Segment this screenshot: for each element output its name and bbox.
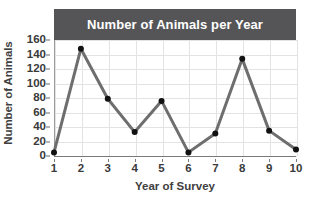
y-tick-label: 40 — [14, 121, 46, 133]
y-tick-mark — [46, 98, 50, 99]
x-tick-mark — [296, 159, 297, 162]
y-tick-mark — [46, 54, 50, 55]
x-axis-title: Year of Survey — [54, 180, 296, 192]
x-tick-mark — [242, 159, 243, 162]
y-tick-mark — [46, 40, 50, 41]
data-point-marker — [212, 131, 218, 137]
x-tick-mark — [162, 159, 163, 162]
x-tick-label: 10 — [283, 163, 309, 175]
x-tick-label: 4 — [122, 163, 148, 175]
x-tick-label: 7 — [202, 163, 228, 175]
x-tick-mark — [269, 159, 270, 162]
y-axis-tick-labels: 020406080100120140160 — [16, 33, 50, 161]
y-tick-mark — [46, 112, 50, 113]
y-tick-mark — [46, 83, 50, 84]
data-point-marker — [185, 149, 191, 155]
chart-container: Number of Animals 020406080100120140160 … — [0, 0, 312, 208]
chart-title: Number of Animals per Year — [87, 17, 263, 32]
y-tick-label: 160 — [14, 34, 46, 46]
data-point-marker — [132, 129, 138, 135]
y-tick-label: 100 — [14, 78, 46, 90]
y-tick-mark — [46, 69, 50, 70]
y-axis-title-label: Number of Animals — [2, 41, 14, 144]
x-tick-label: 8 — [229, 163, 255, 175]
y-tick-label: 20 — [14, 136, 46, 148]
x-tick-mark — [54, 159, 55, 162]
x-tick-mark — [108, 159, 109, 162]
y-tick-label: 60 — [14, 107, 46, 119]
data-point-marker — [105, 96, 111, 102]
data-point-marker — [159, 98, 165, 104]
series-line — [54, 49, 296, 153]
data-point-marker — [266, 128, 272, 134]
x-tick-label: 6 — [175, 163, 201, 175]
x-tick-mark — [81, 159, 82, 162]
x-tick-label: 1 — [41, 163, 67, 175]
data-point-marker — [239, 56, 245, 62]
data-point-marker — [78, 46, 84, 52]
x-tick-mark — [135, 159, 136, 162]
data-point-marker — [293, 146, 299, 152]
y-tick-mark — [46, 156, 50, 157]
y-tick-label: 80 — [14, 92, 46, 104]
x-axis-tick-labels: 12345678910 — [54, 159, 296, 177]
x-axis-line — [54, 156, 296, 157]
chart-title-banner: Number of Animals per Year — [54, 9, 296, 40]
gridline-vertical — [297, 40, 298, 156]
line-series — [54, 40, 296, 156]
x-tick-label: 3 — [95, 163, 121, 175]
x-tick-mark — [215, 159, 216, 162]
x-tick-label: 5 — [149, 163, 175, 175]
y-tick-mark — [46, 127, 50, 128]
data-point-marker — [51, 149, 57, 155]
x-tick-label: 2 — [68, 163, 94, 175]
y-tick-mark — [46, 141, 50, 142]
y-tick-label: 140 — [14, 49, 46, 61]
x-tick-mark — [188, 159, 189, 162]
y-tick-label: 120 — [14, 63, 46, 75]
x-tick-label: 9 — [256, 163, 282, 175]
y-tick-label: 0 — [14, 150, 46, 162]
